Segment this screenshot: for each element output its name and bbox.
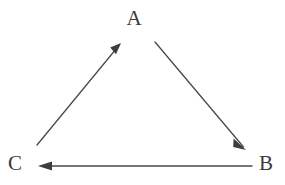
edge-b-to-c[interactable] (38, 162, 252, 171)
edge-c-to-a-line (37, 46, 119, 145)
edge-a-to-b-arrowhead (233, 139, 246, 150)
edge-a-to-b[interactable] (155, 42, 246, 150)
edge-a-to-b-line (155, 42, 244, 147)
node-label-a[interactable]: A (118, 8, 150, 29)
edge-c-to-a[interactable] (37, 43, 121, 145)
edge-b-to-c-arrowhead (38, 162, 52, 171)
edge-c-to-a-arrowhead (110, 43, 121, 54)
node-label-c[interactable]: C (0, 153, 30, 174)
diagram-canvas: A C B (0, 0, 285, 185)
node-label-b[interactable]: B (250, 153, 282, 174)
